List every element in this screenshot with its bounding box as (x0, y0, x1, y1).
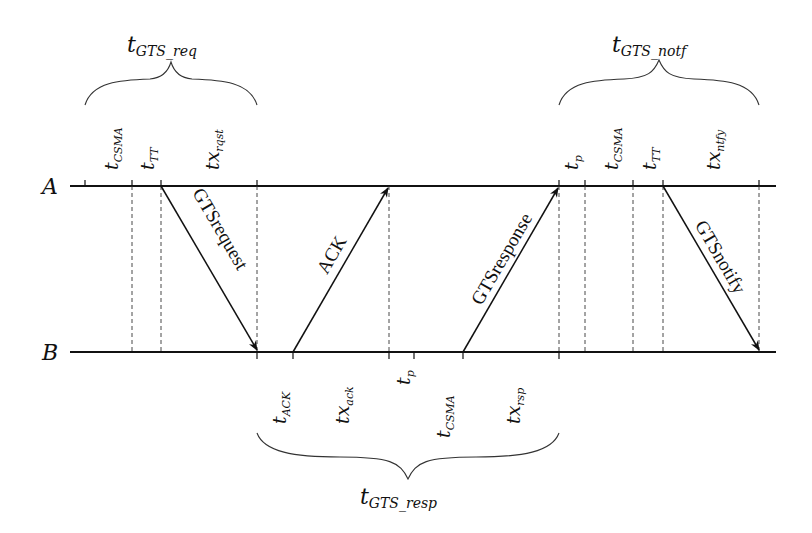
message-gtsnotify: GTSnotify (663, 186, 759, 350)
node-a-timeline: A (40, 174, 776, 199)
interval-label: txntfy (702, 129, 727, 170)
interval-label: txrsp (502, 388, 527, 424)
interval-label: tCSMA (600, 127, 625, 170)
bottom-interval-labels: tACK txack tp tCSMA txrsp (268, 370, 527, 438)
node-b-timeline: B (41, 340, 776, 365)
top-interval-labels: tCSMA tTT txrqst tp tCSMA tTT txntfy (100, 127, 727, 170)
interval-label: txack (331, 386, 356, 424)
node-a-label: A (40, 174, 58, 199)
gtsrequest-label: GTSrequest (189, 184, 253, 274)
interval-label: tp (560, 155, 585, 170)
interval-label: txrqst (201, 129, 226, 170)
interval-label: tCSMA (100, 127, 125, 170)
ack-label: ACK (312, 232, 350, 277)
interval-label: tTT (638, 146, 663, 170)
message-ack: ACK (293, 188, 388, 352)
node-b-label: B (41, 340, 58, 365)
brace-gts-resp: tGTS_resp (257, 433, 559, 512)
interval-label: tCSMA (432, 395, 457, 438)
brace-gts-req: tGTS_req (85, 32, 257, 105)
interval-label: tACK (268, 391, 293, 424)
interval-label: tTT (136, 146, 161, 170)
brace-gts-notf: tGTS_notf (559, 32, 759, 105)
gtsresponse-label: GTSresponse (467, 209, 537, 308)
brace-label: tGTS_req (127, 32, 197, 60)
brace-label: tGTS_resp (360, 484, 437, 512)
message-gtsrequest: GTSrequest (161, 184, 257, 350)
message-gtsresponse: GTSresponse (463, 188, 558, 352)
timing-diagram: A B GTSrequ (0, 0, 812, 533)
brace-label: tGTS_notf (612, 32, 689, 60)
dashed-guides (132, 186, 759, 352)
interval-label: tp (392, 370, 417, 385)
